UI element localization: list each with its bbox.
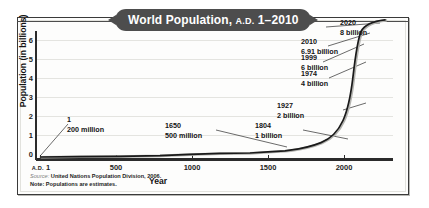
annotation-year-1927: 1927 2 billion <box>277 101 304 120</box>
x-tickmark-1500 <box>268 155 269 159</box>
x-tickmark-2000 <box>344 155 345 159</box>
figure-footer: Source: United Nations Population Divisi… <box>30 172 161 188</box>
chart-title-banner: World Population, A.D. 1–2010 <box>115 9 311 31</box>
annotation-year-1650: 1650 500 million <box>165 121 202 140</box>
annotation-year-1804-value: 1 billion <box>255 131 282 141</box>
y-axis-title: Population (in billions) <box>18 3 28 119</box>
x-tick-label-1: A.D. 1 <box>20 163 62 172</box>
annotation-year-2010: 2010 6.91 billion <box>301 37 338 56</box>
annotation-year-2020-year: 2020 <box>340 18 367 28</box>
annotation-year-1974-value: 4 billion <box>301 79 328 89</box>
annotation-year-1: 1 200 million <box>67 115 104 134</box>
source-line: Source: United Nations Population Divisi… <box>30 172 161 180</box>
annotation-year-2010-value: 6.91 billion <box>301 47 338 57</box>
annotation-year-2020-value: 8 billion <box>340 28 367 38</box>
note-text: Note: Populations are estimates. <box>30 181 117 187</box>
x-tickmark-1 <box>40 155 41 159</box>
y-axis-line <box>35 31 37 160</box>
annotation-year-1927-value: 2 billion <box>277 111 304 121</box>
x-tick-label-1000: 1000 <box>177 163 207 172</box>
gridline-3 <box>36 97 393 98</box>
annotation-year-1927-year: 1927 <box>277 101 304 111</box>
y-tick-label-0: 0 <box>23 150 33 159</box>
annotation-year-1-year: 1 <box>67 115 104 125</box>
annotation-year-1-value: 200 million <box>67 125 104 135</box>
x-tick-label-500: 500 <box>101 163 131 172</box>
x-tickmark-1000 <box>192 155 193 159</box>
chart-title: World Population, A.D. 1–2010 <box>128 13 298 27</box>
gridline-1 <box>36 135 393 136</box>
note-line: Note: Populations are estimates. <box>30 180 161 188</box>
annotation-year-2010-year: 2010 <box>301 37 338 47</box>
gridline-6 <box>36 40 393 41</box>
annotation-year-1999-value: 6 billion <box>301 63 328 73</box>
gridline-5 <box>36 59 393 60</box>
source-label: Source: <box>30 173 49 179</box>
gridline-4 <box>36 78 393 79</box>
annotation-year-1650-year: 1650 <box>165 121 202 131</box>
source-text: United Nations Population Division, 2006… <box>51 173 161 179</box>
annotation-year-1804-year: 1804 <box>255 121 282 131</box>
x-tick-label-2000: 2000 <box>329 163 359 172</box>
annotation-year-1804: 1804 1 billion <box>255 121 282 140</box>
x-axis-line <box>36 158 393 161</box>
y-tick-label-1: 1 <box>23 131 33 140</box>
world-population-chart-figure: World Population, A.D. 1–2010 6 5 4 3 2 … <box>0 0 429 208</box>
annotation-year-2020: 2020 8 billion <box>340 18 367 37</box>
x-tick-label-1500: 1500 <box>253 163 283 172</box>
annotation-year-1650-value: 500 million <box>165 131 202 141</box>
x-tickmark-500 <box>116 155 117 159</box>
